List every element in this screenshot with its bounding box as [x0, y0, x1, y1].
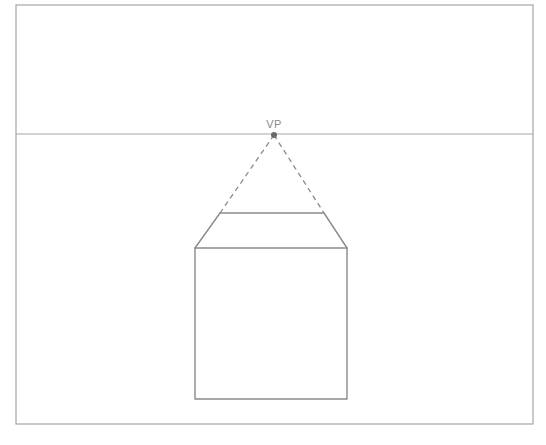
box-front-face	[195, 248, 347, 399]
vanishing-point-dot	[271, 132, 277, 138]
box-top-face	[195, 213, 347, 248]
perspective-drawing: VP	[0, 0, 546, 445]
vanishing-point-label: VP	[266, 118, 282, 130]
drawing-frame	[16, 5, 533, 424]
orthogonal-right	[274, 135, 324, 213]
orthogonal-left	[220, 135, 274, 213]
